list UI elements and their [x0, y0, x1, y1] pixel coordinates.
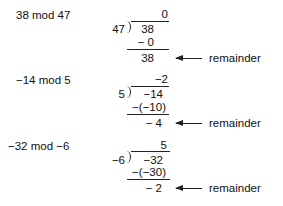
divisor: −6	[100, 154, 125, 166]
expression: −14 mod 5	[16, 74, 71, 86]
divisor: 47	[100, 23, 125, 35]
subtrahend: −(−30)	[126, 166, 166, 178]
remainder-value: − 4	[126, 117, 162, 129]
subtrahend: − 0	[126, 36, 154, 48]
remainder-value: − 2	[126, 182, 162, 194]
subtraction-line	[127, 114, 169, 115]
remainder-value: 38	[126, 52, 154, 64]
subtraction-line	[127, 179, 170, 180]
arrow-left-icon	[176, 188, 202, 189]
arrow-left-icon	[176, 123, 202, 124]
expression: 38 mod 47	[16, 9, 70, 21]
divisor: 5	[100, 88, 125, 100]
remainder-label: remainder	[209, 182, 261, 194]
arrow-left-icon	[176, 58, 202, 59]
subtraction-line	[127, 49, 169, 50]
dividend: −32	[130, 154, 163, 166]
quotient: −2	[130, 73, 168, 85]
division-bar	[131, 21, 169, 22]
quotient: 0	[130, 8, 168, 20]
remainder-label: remainder	[209, 117, 261, 129]
subtrahend: −(−10)	[126, 101, 166, 113]
division-bar	[131, 86, 169, 87]
division-bar	[131, 151, 170, 152]
expression: −32 mod −6	[8, 140, 69, 152]
dividend: 38	[130, 23, 154, 35]
remainder-label: remainder	[209, 52, 261, 64]
quotient: 5	[130, 139, 167, 151]
dividend: −14	[130, 88, 163, 100]
